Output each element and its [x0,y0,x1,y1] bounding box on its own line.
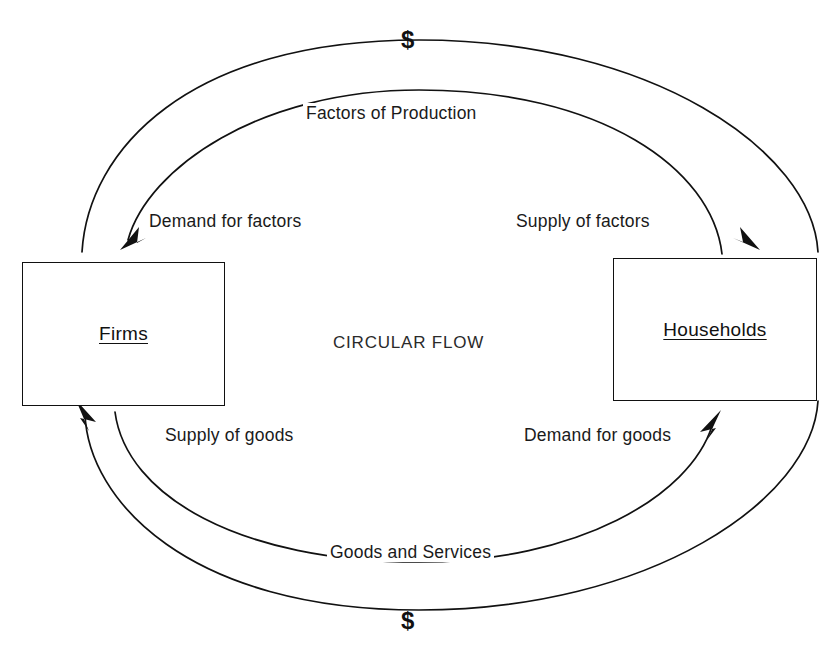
flow-label-goods-and-services: Goods and Services [327,542,494,562]
arrowhead-demand-for-factors [120,227,146,250]
node-firms-label: Firms [99,323,148,345]
circular-flow-diagram: Firms Households CIRCULAR FLOW Factors o… [0,0,837,650]
node-households-label: Households [663,319,766,341]
flow-label-supply-of-factors: Supply of factors [513,211,653,231]
arrowhead-demand-for-goods [700,410,721,440]
diagram-title: CIRCULAR FLOW [333,333,484,353]
flow-label-demand-for-factors: Demand for factors [146,211,304,231]
money-symbol-bottom: $ [401,609,414,633]
flow-label-factors-of-production: Factors of Production [303,103,480,123]
node-firms[interactable]: Firms [22,262,225,406]
node-households[interactable]: Households [613,258,817,401]
flow-label-demand-for-goods: Demand for goods [521,425,674,445]
arrowhead-supply-of-factors [733,227,760,250]
flow-label-supply-of-goods: Supply of goods [162,425,297,445]
money-symbol-top: $ [401,28,414,52]
